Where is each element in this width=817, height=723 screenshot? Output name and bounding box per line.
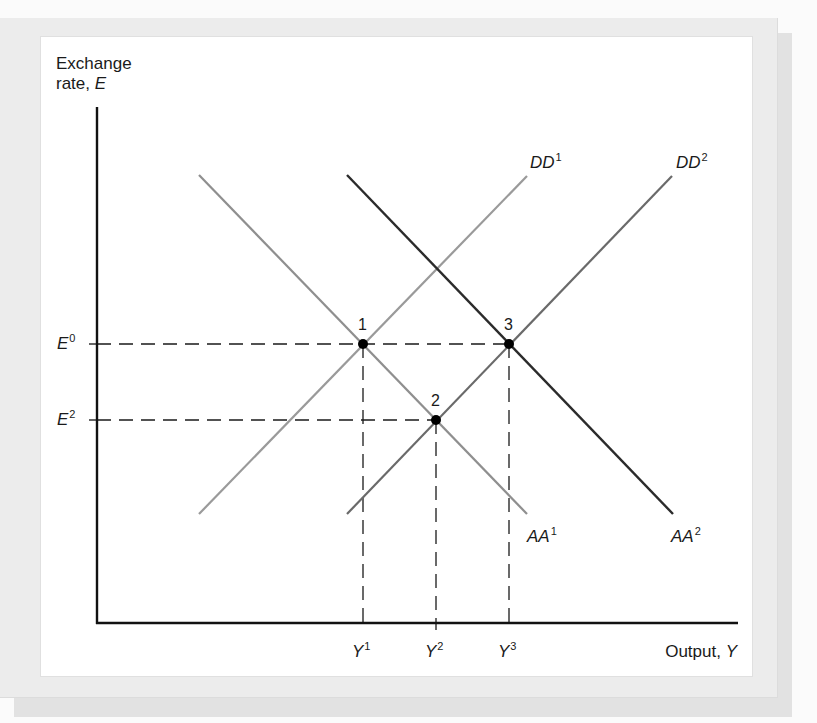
y-tick-E2: E2 xyxy=(57,410,75,431)
x-axis-label: Output, Y xyxy=(665,642,737,662)
x-axis-variable: Y xyxy=(726,642,737,661)
y-axis-label: Exchange rate, E xyxy=(56,54,132,94)
point-label-3: 3 xyxy=(504,316,513,334)
curve-label-AA1: AA1 xyxy=(527,527,557,548)
point-label-1: 1 xyxy=(358,316,367,334)
y-tick-E0: E0 xyxy=(57,334,75,355)
equilibrium-point-2 xyxy=(431,415,441,425)
x-tick-Y3: Y3 xyxy=(498,642,516,663)
equilibrium-point-3 xyxy=(504,339,514,349)
curve-label-DD1: DD1 xyxy=(530,153,562,174)
x-tick-Y2: Y2 xyxy=(425,642,443,663)
dd-aa-chart xyxy=(0,0,817,723)
equilibrium-point-1 xyxy=(358,339,368,349)
guide-lines xyxy=(97,344,509,630)
curve-label-DD2: DD2 xyxy=(676,153,708,174)
x-tick-Y1: Y1 xyxy=(352,642,370,663)
y-axis-variable: E xyxy=(95,74,106,93)
curve-label-AA2: AA2 xyxy=(671,527,701,548)
y-axis-label-line2: rate, E xyxy=(56,74,132,94)
y-axis-label-line1: Exchange xyxy=(56,54,132,74)
point-label-2: 2 xyxy=(431,392,440,410)
